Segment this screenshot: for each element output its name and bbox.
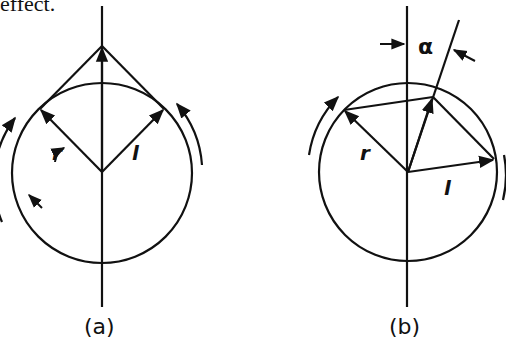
tangent-right-a (102, 46, 164, 109)
caption-b: (b) (389, 314, 420, 339)
panel-a (0, 6, 202, 307)
label-l-b: l (444, 176, 452, 200)
tangent-left-a (40, 46, 102, 109)
caption-a: (a) (84, 314, 115, 339)
r-vector-a (41, 110, 102, 172)
r-vector-b (345, 111, 408, 172)
rotation-diagram: r l (a) α r l (b) (0, 0, 506, 339)
resultant-vector-b (408, 99, 432, 172)
inner-arrow-1-a (29, 195, 42, 208)
panel-b (309, 6, 506, 307)
label-r-b: r (360, 141, 371, 165)
label-l-a: l (132, 141, 140, 165)
l-vector-b (408, 160, 493, 172)
label-r-a: r (52, 141, 63, 165)
label-alpha-b: α (418, 34, 433, 59)
alpha-arrow-right-b (454, 50, 475, 61)
